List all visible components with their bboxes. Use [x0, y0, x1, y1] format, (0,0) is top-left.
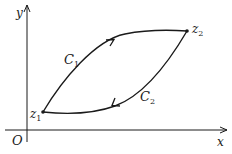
x-axis-label: x	[217, 135, 224, 149]
origin-label: O	[12, 133, 23, 148]
y-axis-label: y	[15, 6, 23, 20]
point-z2-label: z2	[191, 22, 203, 38]
point-z1-dot	[41, 110, 45, 114]
point-z1-label: z1	[29, 107, 41, 123]
curve-c2	[43, 31, 187, 113]
curve-c1-label: C1	[64, 52, 79, 69]
point-z2-dot	[185, 29, 189, 33]
contour-diagram: y x O z1 z2 C1 C2	[0, 0, 232, 154]
curve-c2-label: C2	[140, 89, 155, 106]
c1-direction-arrow-icon	[106, 40, 114, 47]
